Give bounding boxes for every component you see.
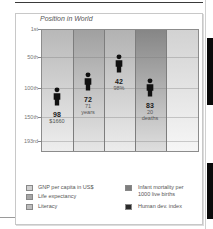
page-edge-bar-top — [207, 38, 213, 105]
ytick-mark — [38, 88, 41, 89]
ytick-label: 1st — [12, 26, 38, 32]
ytick-label: 193rd — [12, 138, 38, 144]
page-edge-line — [205, 0, 206, 229]
person-icon — [145, 78, 155, 97]
marker-infant-mortality: 83 20 deaths — [136, 78, 164, 121]
rank-value: 42 — [105, 78, 133, 85]
legend-swatch-human-dev-index — [125, 204, 132, 210]
person-icon — [114, 54, 124, 73]
ytick-mark — [38, 57, 41, 58]
person-icon — [83, 72, 93, 91]
ytick-label: 100th — [12, 85, 38, 91]
legend-swatch-literacy — [26, 204, 33, 210]
rank-value: 98 — [43, 111, 71, 118]
page-edge-bar-bottom — [207, 163, 213, 219]
marker-life-expectancy: 72 71 years — [74, 72, 102, 115]
detail-value: $1660 — [43, 118, 71, 124]
rank-value: 72 — [74, 96, 102, 103]
legend-label-literacy: Literacy — [38, 203, 57, 210]
legend-swatch-infant-mortality — [125, 185, 132, 191]
legend-label-line: 1000 live births — [138, 191, 184, 198]
legend-label-line: Infant mortality per — [138, 184, 184, 191]
ytick-mark — [38, 141, 41, 142]
ytick-mark — [38, 117, 41, 118]
marker-literacy: 42 98% — [105, 54, 133, 91]
gridline-193rd — [41, 141, 199, 142]
person-icon — [52, 87, 62, 106]
ytick-label: 50th — [12, 54, 38, 60]
legend-label-infant-mortality: Infant mortality per 1000 live births — [138, 184, 184, 198]
top-rule — [15, 2, 203, 3]
column-human-dev-index — [167, 30, 198, 151]
ytick-label: 150th — [12, 114, 38, 120]
ytick-mark — [38, 29, 41, 30]
legend-label-life-expectancy: Life expectancy — [38, 193, 76, 200]
legend-swatch-life-expectancy — [26, 194, 33, 200]
legend-swatch-gnp — [26, 185, 33, 191]
detail-unit: deaths — [136, 115, 164, 121]
legend-label-gnp: GNP per capita in US$ — [38, 184, 94, 191]
marker-gnp: 98 $1660 — [43, 87, 71, 124]
rank-value: 83 — [136, 102, 164, 109]
detail-unit: years — [74, 109, 102, 115]
chart-title: Position in World — [40, 15, 93, 22]
detail-value: 98% — [105, 85, 133, 91]
legend-label-human-dev-index: Human dev. index — [138, 203, 182, 210]
